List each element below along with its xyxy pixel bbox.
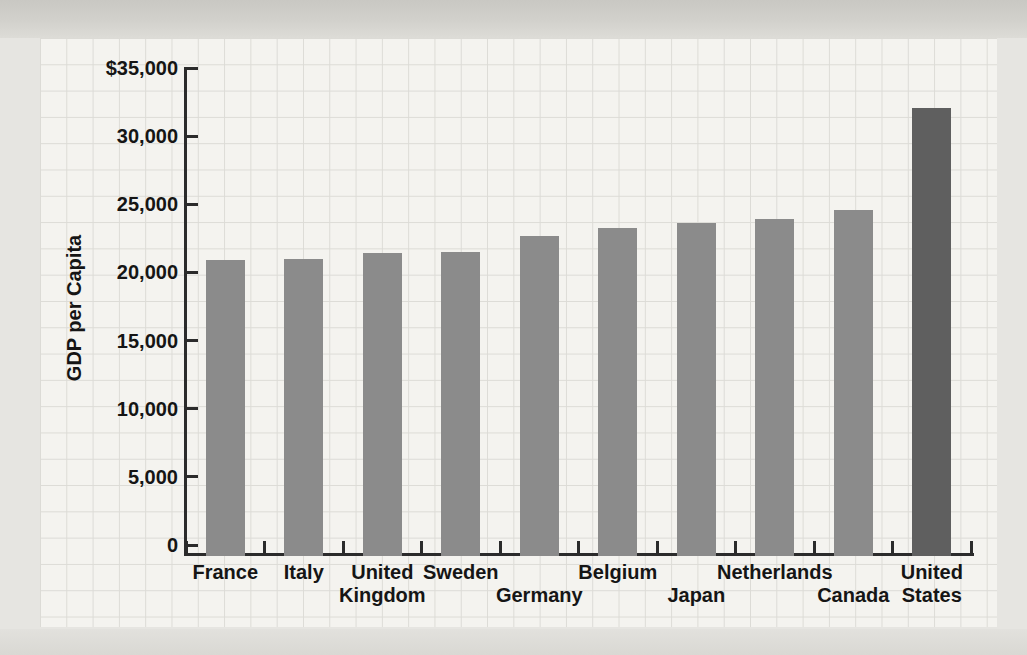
y-tick-label-5000: 5,000 [0,466,178,488]
y-axis-title: GDP per Capita [63,235,86,381]
category-label-united-states-line2: States [847,584,1017,606]
y-tick-0 [186,544,198,547]
x-tick-6 [656,541,659,553]
y-tick-10000 [186,407,198,410]
bar-belgium [598,228,637,557]
bar-italy [284,259,323,556]
y-tick-label-35000: $35,000 [0,57,178,79]
category-label-united-kingdom-line2: Kingdom [297,584,467,606]
y-tick-20000 [186,271,198,274]
category-label-united-states: United [847,561,1017,583]
y-tick-15000 [186,339,198,342]
category-label-sweden: Sweden [376,561,546,583]
bar-canada [834,210,873,556]
y-tick-label-10000: 10,000 [0,398,178,420]
scan-bottom-edge [0,629,1027,655]
y-tick-35000 [186,67,198,70]
y-tick-label-30000: 30,000 [0,125,178,147]
category-label-germany-line2: Germany [454,584,624,606]
y-axis-line [184,67,187,556]
y-tick-25000 [186,203,198,206]
bar-japan [677,223,716,556]
y-tick-5000 [186,475,198,478]
bar-united-kingdom [363,253,402,556]
x-tick-4 [499,541,502,553]
y-tick-label-0: 0 [0,534,178,556]
scan-top-edge [0,0,1027,38]
x-tick-7 [734,541,737,553]
bar-sweden [441,252,480,556]
bar-germany [520,236,559,556]
y-tick-label-20000: 20,000 [0,261,178,283]
x-tick-5 [577,541,580,553]
x-tick-3 [420,541,423,553]
category-label-belgium: Belgium [533,561,703,583]
category-label-netherlands: Netherlands [690,561,860,583]
bar-france [206,260,245,556]
x-tick-0 [185,541,188,553]
y-tick-label-25000: 25,000 [0,193,178,215]
category-label-japan-line2: Japan [611,584,781,606]
bar-united-states [912,108,951,557]
x-tick-1 [263,541,266,553]
bar-netherlands [755,219,794,556]
y-tick-label-15000: 15,000 [0,330,178,352]
x-tick-8 [813,541,816,553]
x-tick-10 [970,541,973,553]
scanned-figure-page: GDP per Capita $35,00030,00025,00020,000… [0,0,1027,655]
x-tick-9 [891,541,894,553]
y-tick-30000 [186,135,198,138]
x-tick-2 [342,541,345,553]
